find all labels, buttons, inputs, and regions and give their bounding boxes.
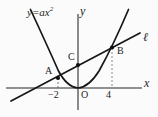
line-l-label: ℓ (143, 31, 148, 43)
x-axis-label: x (144, 77, 149, 89)
point-b-label: B (117, 46, 124, 56)
line-l (11, 33, 140, 101)
figure-canvas (0, 0, 158, 117)
parabola-equation-exponent: 2 (50, 5, 54, 13)
parabola-equation-text: y=ax (27, 6, 50, 18)
parabola-equation-label: y=ax2 (27, 6, 53, 18)
origin-label: O (81, 90, 88, 100)
point-c-label: C (68, 52, 75, 62)
y-axis-label: y (80, 5, 85, 17)
point-b-marker (110, 45, 114, 49)
parabola-curve (31, 10, 129, 89)
math-figure: y=ax2 y x ℓ A B C O −2 4 (0, 0, 158, 117)
point-a-marker (56, 76, 60, 80)
point-c-marker (76, 63, 80, 67)
x-tick-label-four: 4 (106, 90, 111, 100)
x-tick-label-minus-two: −2 (48, 90, 59, 100)
point-a-label: A (45, 66, 52, 76)
